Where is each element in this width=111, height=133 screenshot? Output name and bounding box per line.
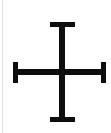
cross-top-serif xyxy=(50,22,75,27)
cross-horizontal-bar xyxy=(13,69,106,75)
cross-left-serif xyxy=(13,62,18,83)
cross-right-serif xyxy=(101,62,106,83)
image-canvas xyxy=(0,0,111,133)
cross-symbol-icon xyxy=(0,0,111,133)
cross-glyph-group xyxy=(13,22,106,122)
cross-bottom-serif xyxy=(50,117,75,122)
